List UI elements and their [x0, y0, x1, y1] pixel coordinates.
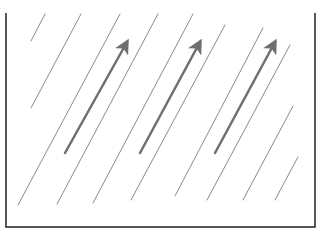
frame	[6, 13, 315, 227]
parallel-line-3	[18, 14, 120, 205]
frame-border	[6, 13, 315, 227]
parallel-line-2	[31, 14, 81, 108]
parallel-line-7	[175, 28, 263, 196]
diagram-figure	[0, 0, 321, 236]
parallel-lines	[18, 14, 298, 205]
parallel-line-10	[275, 157, 298, 200]
parallel-line-6	[131, 25, 225, 200]
arrow-icon-3	[215, 42, 275, 153]
parallel-line-9	[243, 106, 293, 200]
diagram-canvas	[0, 0, 321, 236]
parallel-line-8	[207, 45, 290, 200]
parallel-line-1	[31, 14, 45, 41]
